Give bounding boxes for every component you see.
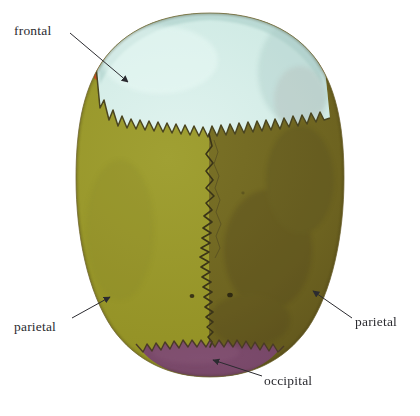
parietal-foramen-left bbox=[190, 294, 195, 298]
label-frontal: frontal bbox=[14, 24, 51, 38]
frontal-highlight bbox=[102, 26, 218, 94]
skull-superior-view-illustration bbox=[0, 0, 420, 416]
occipital-region bbox=[0, 330, 420, 416]
skull-body bbox=[0, 0, 420, 416]
label-parietal-left: parietal bbox=[14, 320, 56, 334]
parietal-foramen-upper bbox=[241, 192, 244, 195]
parietal-foramen-right bbox=[227, 293, 233, 298]
edge-fleck bbox=[291, 349, 301, 355]
label-parietal-right: parietal bbox=[355, 315, 397, 329]
label-occipital: occipital bbox=[264, 374, 312, 388]
